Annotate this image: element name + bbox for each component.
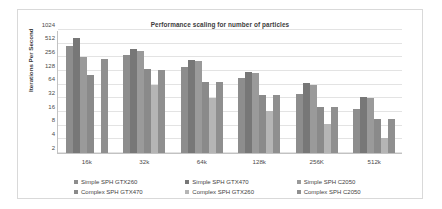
x-axis-tick-label: 128k	[253, 158, 266, 165]
bar[interactable]	[266, 111, 273, 153]
legend-item[interactable]: Complex SPH GTX260	[185, 187, 292, 197]
bar[interactable]	[259, 95, 266, 153]
y-axis-title: Iterations Per Second	[27, 28, 34, 92]
chart-legend: Simple SPH GTX260Simple SPH GTX470Simple…	[74, 177, 404, 197]
chart-title: Performance scaling for number of partic…	[18, 21, 422, 28]
x-axis-tick-label: 512k	[368, 158, 381, 165]
chart-screenshot: Performance scaling for number of partic…	[0, 0, 442, 209]
bar[interactable]	[123, 55, 130, 153]
bar[interactable]	[388, 119, 395, 153]
legend-swatch-icon	[185, 190, 189, 194]
bar[interactable]	[80, 57, 87, 153]
bar[interactable]	[130, 49, 137, 153]
bar[interactable]	[245, 72, 252, 153]
bar[interactable]	[317, 107, 324, 153]
legend-label: Complex SPH C2050	[304, 189, 361, 195]
legend-label: Simple SPH C2050	[304, 179, 356, 185]
legend-swatch-icon	[74, 190, 78, 194]
bar[interactable]	[353, 109, 360, 153]
bar[interactable]	[188, 60, 195, 153]
bar[interactable]	[238, 78, 245, 153]
bar[interactable]	[303, 83, 310, 153]
y-axis-tick-label: 1024	[42, 22, 55, 28]
legend-item[interactable]: Simple SPH GTX260	[74, 177, 181, 187]
legend-label: Complex SPH GTX470	[81, 189, 143, 195]
bar-group: 64k	[173, 31, 231, 153]
y-axis-tick-label: 4	[52, 131, 55, 137]
y-axis-tick-label: 512	[45, 35, 55, 41]
legend-swatch-icon	[297, 190, 301, 194]
bar-group: 256K	[288, 31, 346, 153]
bar[interactable]	[101, 59, 108, 153]
bar[interactable]	[273, 95, 280, 153]
bar[interactable]	[195, 61, 202, 153]
legend-swatch-icon	[185, 180, 189, 184]
y-axis-tick-label: 256	[45, 49, 55, 55]
legend-item[interactable]: Complex SPH GTX470	[74, 187, 181, 197]
bar[interactable]	[73, 38, 80, 153]
y-axis-tick-label: 128	[45, 63, 55, 69]
bar[interactable]	[209, 98, 216, 153]
bar-group: 128k	[231, 31, 289, 153]
bar[interactable]	[296, 94, 303, 153]
bar[interactable]	[324, 124, 331, 153]
y-axis-tick-label: 8	[52, 117, 55, 123]
bar[interactable]	[144, 69, 151, 153]
bar-group: 32k	[116, 31, 174, 153]
bar[interactable]	[202, 82, 209, 153]
bar[interactable]	[151, 85, 158, 153]
x-axis-tick-label: 32k	[139, 158, 149, 165]
legend-swatch-icon	[297, 180, 301, 184]
bar-group: 512k	[346, 31, 404, 153]
legend-item[interactable]: Simple SPH C2050	[297, 177, 404, 187]
x-axis-tick-label: 64k	[197, 158, 207, 165]
x-axis-tick-label: 256K	[310, 158, 324, 165]
bar[interactable]	[381, 138, 388, 153]
bar[interactable]	[181, 67, 188, 153]
bar[interactable]	[310, 85, 317, 153]
y-axis-tick-label: 32	[48, 90, 55, 96]
legend-label: Simple SPH GTX260	[81, 179, 137, 185]
plot-area: 1024512256128643216842 16k32k64k128k256K…	[57, 31, 402, 154]
bar[interactable]	[367, 98, 374, 153]
gridline	[58, 29, 402, 30]
legend-item[interactable]: Complex SPH C2050	[297, 187, 404, 197]
x-axis-tick-label: 16k	[82, 158, 92, 165]
bar[interactable]	[374, 119, 381, 153]
legend-swatch-icon	[74, 180, 78, 184]
bar[interactable]	[66, 46, 73, 153]
bar[interactable]	[158, 70, 165, 153]
legend-label: Simple SPH GTX470	[192, 179, 248, 185]
y-axis-tick-label: 64	[48, 76, 55, 82]
legend-label: Complex SPH GTX260	[192, 189, 254, 195]
bar[interactable]	[252, 73, 259, 153]
chart-frame: Performance scaling for number of partic…	[17, 9, 423, 199]
bar[interactable]	[216, 82, 223, 153]
bar[interactable]	[87, 75, 94, 153]
y-axis-tick-label: 2	[52, 145, 55, 151]
legend-item[interactable]: Simple SPH GTX470	[185, 177, 292, 187]
y-axis-tick-label: 16	[48, 104, 55, 110]
bar-group: 16k	[58, 31, 116, 153]
bar[interactable]	[331, 107, 338, 153]
bar[interactable]	[137, 51, 144, 153]
bar[interactable]	[360, 97, 367, 153]
